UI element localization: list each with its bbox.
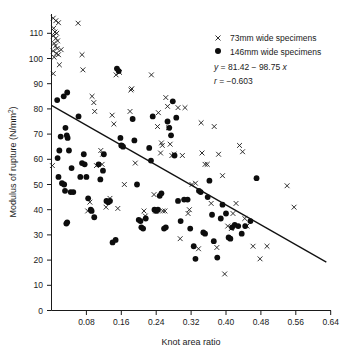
data-point-dot bbox=[165, 119, 171, 125]
data-point-dot bbox=[143, 216, 149, 222]
x-tick-label: 0.40 bbox=[218, 317, 235, 327]
y-tick-100: 100 bbox=[29, 54, 52, 64]
data-point-cross bbox=[187, 207, 192, 212]
data-point-dot bbox=[170, 98, 176, 104]
data-point-dot bbox=[163, 224, 169, 230]
data-point-cross bbox=[152, 192, 157, 197]
data-point-dot bbox=[107, 198, 113, 204]
data-point-dot bbox=[89, 208, 95, 214]
y-axis-ticks: 0 10 20 30 40 50 bbox=[29, 28, 52, 315]
data-point-dot bbox=[85, 195, 91, 201]
y-tick-70: 70 bbox=[34, 129, 52, 139]
data-point-cross bbox=[240, 149, 245, 154]
scatter-plot-figure: 0 10 20 30 40 50 bbox=[0, 0, 349, 355]
data-point-cross bbox=[258, 256, 263, 261]
data-point-dot bbox=[56, 174, 62, 180]
y-tick-60: 60 bbox=[34, 154, 52, 164]
y-tick-label: 80 bbox=[34, 104, 44, 114]
data-point-cross bbox=[54, 31, 59, 36]
data-point-dot bbox=[64, 90, 70, 96]
y-tick-30: 30 bbox=[34, 230, 52, 240]
data-point-dot bbox=[175, 198, 181, 204]
data-point-cross bbox=[196, 246, 201, 251]
data-point-cross bbox=[265, 244, 270, 249]
data-point-dot bbox=[116, 68, 122, 74]
x-tick-label: 0.16 bbox=[113, 317, 130, 327]
plot-canvas: 0 10 20 30 40 50 bbox=[0, 0, 349, 355]
x-tick-048: 0.48 bbox=[253, 311, 270, 328]
data-point-cross bbox=[111, 122, 116, 127]
data-point-cross bbox=[133, 161, 138, 166]
data-point-dot bbox=[96, 161, 102, 167]
data-point-cross bbox=[76, 21, 81, 26]
data-point-cross bbox=[59, 47, 64, 52]
data-point-cross bbox=[212, 124, 217, 129]
data-point-dot bbox=[239, 231, 245, 237]
y-tick-80: 80 bbox=[34, 104, 52, 114]
x-tick-label: 0.56 bbox=[288, 317, 305, 327]
data-point-dot bbox=[140, 226, 146, 232]
data-point-dot bbox=[91, 214, 97, 220]
data-point-cross bbox=[231, 211, 236, 216]
data-point-dot bbox=[146, 145, 152, 151]
data-point-dot bbox=[65, 135, 71, 141]
data-point-cross bbox=[234, 201, 239, 206]
data-point-dot bbox=[66, 148, 72, 154]
data-point-cross bbox=[51, 26, 56, 31]
x-tick-label: 0.08 bbox=[78, 317, 95, 327]
data-point-cross bbox=[180, 153, 185, 158]
y-tick-90: 90 bbox=[34, 79, 52, 89]
data-point-cross bbox=[178, 236, 183, 241]
y-axis-title-close: ) bbox=[8, 106, 18, 109]
x-axis-ticks: 0.08 0.16 0.24 0.32 0.40 0.48 bbox=[78, 311, 339, 328]
y-tick-label: 110 bbox=[29, 28, 43, 38]
y-tick-20: 20 bbox=[34, 255, 52, 265]
data-point-cross bbox=[176, 105, 181, 110]
data-point-dot bbox=[187, 226, 193, 232]
x-tick-label: 0.64 bbox=[322, 317, 339, 327]
x-tick-040: 0.40 bbox=[218, 311, 235, 328]
x-tick-016: 0.16 bbox=[113, 311, 130, 328]
data-point-dot bbox=[218, 216, 224, 222]
data-point-dot bbox=[130, 116, 136, 122]
data-point-dot bbox=[207, 178, 213, 184]
legend-label-73mm: 73mm wide specimens bbox=[230, 33, 316, 43]
x-tick-label: 0.24 bbox=[148, 317, 165, 327]
data-point-cross bbox=[183, 105, 188, 110]
y-axis-title-main: Modulus of rupture (N/mm bbox=[8, 113, 18, 218]
y-tick-label: 10 bbox=[34, 280, 44, 290]
data-point-cross bbox=[216, 152, 221, 157]
regression-equation: y = 81.42 − 98.75 x bbox=[213, 62, 288, 72]
data-point-dot bbox=[55, 155, 61, 161]
data-point-dot bbox=[84, 174, 90, 180]
data-point-cross bbox=[199, 120, 204, 125]
y-tick-label: 0 bbox=[38, 306, 43, 316]
data-point-dot bbox=[101, 151, 107, 157]
data-point-cross bbox=[92, 109, 97, 114]
x-tick-008: 0.08 bbox=[78, 311, 95, 328]
data-point-dot bbox=[118, 135, 124, 141]
y-tick-10: 10 bbox=[34, 280, 52, 290]
data-point-cross bbox=[158, 151, 163, 156]
data-point-cross bbox=[214, 245, 219, 250]
data-point-dot bbox=[76, 114, 82, 120]
dot-icon bbox=[215, 48, 221, 54]
y-tick-label: 100 bbox=[29, 54, 43, 64]
y-tick-label: 90 bbox=[34, 79, 44, 89]
data-point-cross bbox=[163, 95, 168, 100]
data-point-cross bbox=[90, 94, 95, 99]
data-point-dot bbox=[61, 182, 67, 188]
data-point-dot bbox=[209, 212, 215, 218]
legend-entry-146mm: 146mm wide specimens bbox=[215, 47, 321, 57]
correlation-body: = −0.603 bbox=[217, 76, 253, 86]
data-point-dot bbox=[211, 238, 217, 244]
x-tick-032: 0.32 bbox=[183, 311, 200, 328]
data-point-dot bbox=[235, 223, 241, 229]
data-point-dot bbox=[155, 207, 161, 213]
data-point-cross bbox=[56, 20, 61, 25]
data-point-dot bbox=[134, 182, 140, 188]
y-tick-label: 60 bbox=[34, 154, 44, 164]
correlation-value: r = −0.603 bbox=[214, 76, 253, 86]
data-point-cross bbox=[55, 38, 60, 43]
data-point-cross bbox=[104, 205, 109, 210]
